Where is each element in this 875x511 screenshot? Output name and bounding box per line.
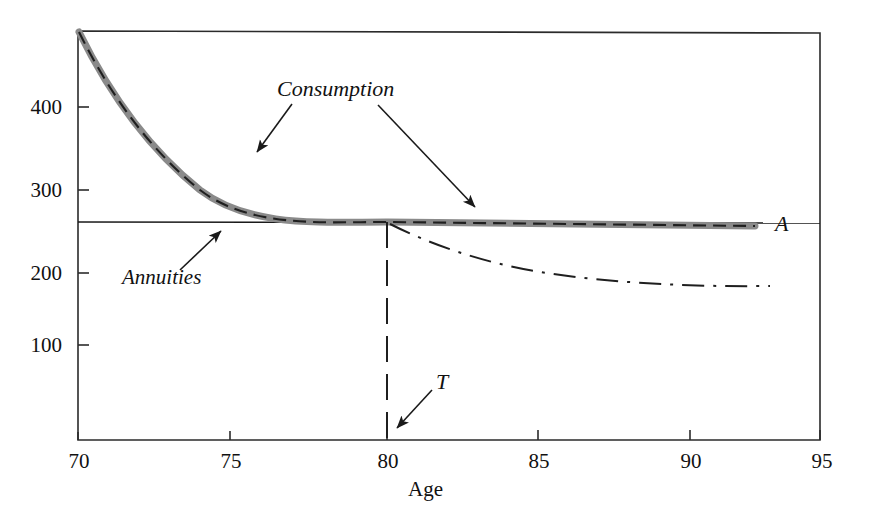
y-tick-label-300: 300 (10, 178, 62, 203)
plot-frame (78, 31, 820, 440)
chart-svg (0, 0, 875, 511)
series-consumption-dashed-overlay (79, 32, 755, 226)
consumption-arrow-right (378, 105, 475, 207)
x-axis-ticks (78, 430, 820, 440)
y-axis-ticks (78, 107, 89, 345)
y-tick-label-100: 100 (10, 333, 62, 358)
series-post-t-dashdot (390, 224, 770, 286)
figure-canvas: 400 300 200 100 70 75 80 85 90 95 Age Co… (0, 0, 875, 511)
annotation-arrows (180, 104, 475, 428)
x-tick-label-75: 75 (214, 449, 248, 474)
series-consumption-band (79, 32, 755, 226)
x-axis-title: Age (408, 477, 443, 502)
x-tick-label-70: 70 (62, 449, 96, 474)
y-tick-label-200: 200 (10, 261, 62, 286)
consumption-arrow-left (257, 104, 292, 152)
asset-label-a: A (775, 211, 788, 237)
x-tick-label-95: 95 (805, 449, 839, 474)
y-tick-label-400: 400 (10, 95, 62, 120)
retirement-label-t: T (436, 369, 448, 395)
x-tick-label-80: 80 (371, 449, 405, 474)
annuities-label: Annuities (122, 265, 201, 290)
retirement-arrow (397, 390, 432, 428)
x-tick-label-85: 85 (522, 449, 556, 474)
consumption-label: Consumption (277, 76, 394, 102)
x-tick-label-90: 90 (674, 449, 708, 474)
